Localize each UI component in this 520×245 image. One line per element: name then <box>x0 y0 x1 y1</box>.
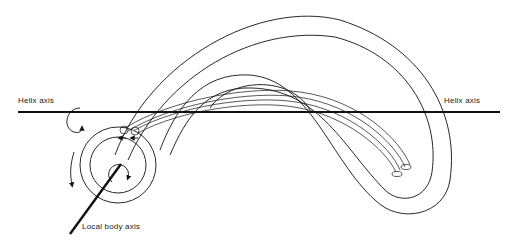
helix-axis-label-right: Helix axis <box>444 96 480 105</box>
cross-section <box>80 127 156 203</box>
local-body-axis-label: Local body axis <box>82 222 140 231</box>
rotation-arrow-body <box>71 152 74 185</box>
inner-tubes <box>120 90 411 176</box>
helix-diagram <box>0 0 520 245</box>
helix-axis-label-left: Helix axis <box>18 96 54 105</box>
outer-tube <box>115 16 452 214</box>
